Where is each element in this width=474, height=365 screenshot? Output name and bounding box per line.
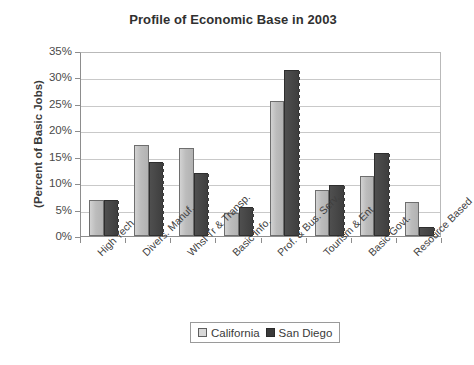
legend-label: California bbox=[211, 327, 260, 339]
x-tick-mark bbox=[215, 238, 216, 243]
bar-group bbox=[352, 53, 397, 236]
x-tick-mark bbox=[170, 238, 171, 243]
y-tick-label: 20% bbox=[26, 124, 72, 136]
plot-area bbox=[80, 52, 441, 237]
bar-group bbox=[262, 53, 307, 236]
x-tick-mark bbox=[396, 238, 397, 243]
legend-swatch-icon bbox=[266, 328, 275, 337]
bar bbox=[149, 162, 164, 236]
y-tick-label: 30% bbox=[26, 71, 72, 83]
legend-entry: California bbox=[198, 327, 260, 339]
legend-entry: San Diego bbox=[266, 327, 333, 339]
bar-group bbox=[397, 53, 442, 236]
legend-label: San Diego bbox=[279, 327, 333, 339]
bar bbox=[284, 70, 299, 237]
bar bbox=[134, 145, 149, 236]
bar bbox=[270, 101, 285, 236]
x-tick-mark bbox=[261, 238, 262, 243]
x-tick-mark bbox=[441, 238, 442, 243]
bar bbox=[374, 153, 389, 237]
x-tick-mark bbox=[125, 238, 126, 243]
bar-group bbox=[126, 53, 171, 236]
legend-swatch-icon bbox=[198, 328, 207, 337]
chart-title: Profile of Economic Base in 2003 bbox=[0, 12, 466, 27]
y-tick-label: 10% bbox=[26, 177, 72, 189]
y-tick-label: 0% bbox=[26, 230, 72, 242]
y-tick-label: 35% bbox=[26, 45, 72, 57]
y-tick-label: 15% bbox=[26, 151, 72, 163]
x-tick-mark bbox=[351, 238, 352, 243]
x-tick-mark bbox=[306, 238, 307, 243]
bar bbox=[89, 200, 104, 236]
bar-group bbox=[81, 53, 126, 236]
x-tick-mark bbox=[80, 238, 81, 243]
y-tick-label: 5% bbox=[26, 204, 72, 216]
y-tick-label: 25% bbox=[26, 98, 72, 110]
chart-legend: CaliforniaSan Diego bbox=[190, 322, 340, 343]
